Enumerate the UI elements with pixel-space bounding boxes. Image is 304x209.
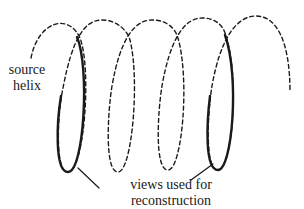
source-helix-path <box>31 16 290 172</box>
source-label-line2: helix <box>2 78 52 94</box>
source-label-line1: source <box>2 62 52 78</box>
views-label-line1: views used for <box>96 177 246 193</box>
views-label-line2: reconstruction <box>96 193 246 209</box>
source-helix-label: source helix <box>2 62 52 94</box>
highlighted-view-4 <box>207 35 233 170</box>
views-label: views used for reconstruction <box>96 177 246 209</box>
